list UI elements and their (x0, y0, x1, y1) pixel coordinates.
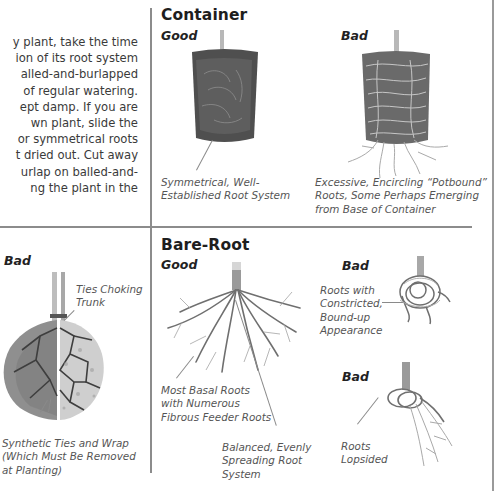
vertical-divider (150, 8, 152, 473)
bare-root-good-illustration (160, 262, 310, 382)
paragraph-line: wn plant, slide the (0, 115, 138, 131)
bb-ties-callout: Ties Choking Trunk (76, 283, 143, 310)
bare-root-bad2-illustration (380, 362, 460, 472)
bb-bad-label: Bad (4, 253, 31, 268)
page-edge-border (492, 0, 494, 491)
container-bad-rootball (338, 30, 458, 180)
container-good-caption: Symmetrical, Well- Established Root Syst… (161, 176, 290, 203)
bare-root-basal-caption: Most Basal Roots with Numerous Fibrous F… (161, 384, 271, 424)
paragraph-line: of regular watering. (0, 83, 138, 99)
paragraph-line: ion of its root system (0, 50, 138, 66)
paragraph-line: t dried out. Cut away (0, 147, 138, 163)
bare-root-bad2-label: Bad (342, 369, 369, 384)
lopsided-leader (357, 397, 379, 424)
paragraph-line: y plant, take the time (0, 34, 138, 50)
bare-root-bad2-caption: Roots Lopsided (341, 440, 388, 467)
bare-root-bad1-caption: Roots with Constricted, Bound-up Appeara… (320, 284, 383, 338)
container-good-rootball (186, 30, 262, 150)
paragraph-line: urlap on balled-and- (0, 164, 138, 180)
bare-root-bad1-illustration (392, 256, 452, 326)
intro-paragraph: y plant, take the time ion of its root s… (0, 34, 138, 196)
container-bad-caption: Excessive, Encircling “Potbound” Roots, … (315, 176, 487, 216)
bare-root-section-title: Bare-Root (161, 236, 249, 254)
paragraph-line: ept damp. If you are (0, 99, 138, 115)
bare-root-balanced-caption: Balanced, Evenly Spreading Root System (222, 441, 311, 481)
paragraph-line: alled-and-burlapped (0, 66, 138, 82)
paragraph-line: or symmetrical roots (0, 131, 138, 147)
paragraph-line: ng the plant in the (0, 180, 138, 196)
bare-root-bad1-label: Bad (342, 258, 369, 273)
bb-wrap-callout: Synthetic Ties and Wrap (Which Must Be R… (2, 437, 136, 477)
container-section-title: Container (161, 6, 247, 24)
horizontal-divider (0, 226, 472, 228)
